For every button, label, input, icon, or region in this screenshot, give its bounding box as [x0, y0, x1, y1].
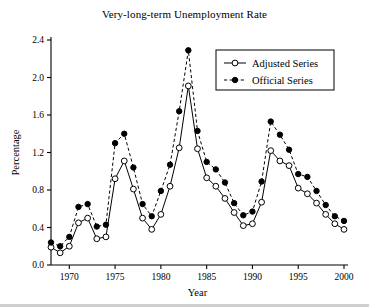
- data-point: [158, 211, 164, 217]
- data-point: [195, 128, 200, 133]
- chart-plot-area: 0.00.40.81.21.62.02.41970197519801985199…: [0, 0, 369, 307]
- data-point: [149, 214, 154, 219]
- y-axis-tick-label: 2.0: [32, 73, 44, 83]
- data-point: [332, 214, 337, 219]
- data-point: [250, 209, 255, 214]
- data-point: [57, 244, 62, 249]
- data-point: [231, 200, 236, 205]
- data-point: [85, 215, 91, 221]
- data-point: [222, 180, 227, 185]
- data-point: [167, 162, 172, 167]
- data-point: [250, 221, 256, 227]
- y-axis-title: Percentage: [10, 129, 21, 175]
- data-point: [195, 146, 201, 152]
- data-point: [48, 240, 53, 245]
- data-point: [131, 165, 136, 170]
- data-point: [222, 196, 228, 202]
- data-point: [341, 226, 347, 232]
- x-axis-tick-label: 1995: [289, 272, 308, 282]
- data-point: [176, 145, 182, 151]
- data-point: [121, 158, 127, 164]
- y-axis-tick-label: 0.0: [32, 260, 44, 270]
- data-point: [241, 213, 246, 218]
- data-point: [259, 179, 264, 184]
- data-point: [204, 175, 210, 181]
- data-point: [176, 109, 181, 114]
- data-point: [67, 234, 72, 239]
- data-point: [57, 250, 63, 256]
- data-point: [341, 218, 346, 223]
- data-point: [314, 200, 320, 206]
- data-point: [286, 163, 292, 169]
- data-point: [112, 140, 117, 145]
- x-axis-tick-label: 1980: [151, 272, 170, 282]
- data-point: [94, 236, 100, 242]
- data-point: [76, 220, 82, 226]
- data-point: [213, 167, 218, 172]
- data-point: [332, 221, 338, 227]
- data-point: [240, 223, 246, 229]
- data-point: [323, 202, 328, 207]
- x-axis-tick-label: 1970: [60, 272, 79, 282]
- data-point: [112, 176, 118, 182]
- data-point: [295, 185, 301, 191]
- data-point: [204, 159, 209, 164]
- legend-label-2: Official Series: [252, 75, 313, 86]
- data-point: [185, 83, 191, 89]
- data-point: [140, 201, 145, 206]
- data-point: [94, 224, 99, 229]
- data-point: [140, 215, 146, 221]
- chart-legend: Adjusted SeriesOfficial Series: [216, 50, 334, 90]
- data-point: [231, 210, 237, 216]
- data-point: [296, 171, 301, 176]
- y-axis-tick-label: 2.4: [32, 35, 44, 45]
- legend-marker: [232, 77, 237, 82]
- x-axis-tick-label: 2000: [335, 272, 354, 282]
- y-axis-tick-label: 1.2: [32, 148, 44, 158]
- data-point: [286, 147, 291, 152]
- data-point: [213, 183, 219, 189]
- data-point: [323, 211, 329, 217]
- data-point: [158, 188, 163, 193]
- data-point: [277, 132, 282, 137]
- data-point: [268, 148, 274, 154]
- legend-label-1: Adjusted Series: [252, 58, 318, 69]
- x-axis-tick-label: 1990: [243, 272, 262, 282]
- x-axis-tick-label: 1985: [197, 272, 216, 282]
- data-point: [103, 222, 108, 227]
- y-axis-tick-label: 0.8: [32, 185, 44, 195]
- data-point: [314, 188, 319, 193]
- data-point: [149, 226, 155, 232]
- data-point: [277, 158, 283, 164]
- data-point: [268, 119, 273, 124]
- data-point: [103, 234, 109, 240]
- data-point: [66, 243, 72, 249]
- data-point: [304, 191, 310, 197]
- data-point: [167, 183, 173, 189]
- data-point: [305, 174, 310, 179]
- x-axis-tick-label: 1975: [106, 272, 125, 282]
- data-point: [85, 201, 90, 206]
- y-axis-tick-label: 0.4: [32, 223, 44, 233]
- y-axis-tick-label: 1.6: [32, 110, 44, 120]
- data-point: [122, 131, 127, 136]
- chart-figure: Very-long-term Unemployment Rate 0.00.40…: [0, 0, 369, 307]
- data-point: [259, 199, 265, 205]
- x-axis-title: Year: [188, 287, 208, 298]
- legend-marker: [232, 60, 238, 66]
- data-point: [186, 48, 191, 53]
- data-point: [131, 186, 137, 192]
- data-point: [76, 204, 81, 209]
